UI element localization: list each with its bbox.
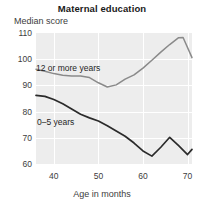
x-tick-label: 70 bbox=[183, 171, 192, 181]
series-label-0-5-years: 0–5 years bbox=[37, 117, 74, 127]
x-axis-label: Age in months bbox=[0, 189, 204, 199]
chart-figure: Maternal education Median score 11010090… bbox=[0, 0, 204, 209]
x-tick-label: 50 bbox=[94, 171, 103, 181]
x-tick-label: 40 bbox=[49, 171, 58, 181]
series-label-12-or-more-years: 12 or more years bbox=[36, 63, 100, 73]
x-tick-label: 60 bbox=[138, 171, 147, 181]
